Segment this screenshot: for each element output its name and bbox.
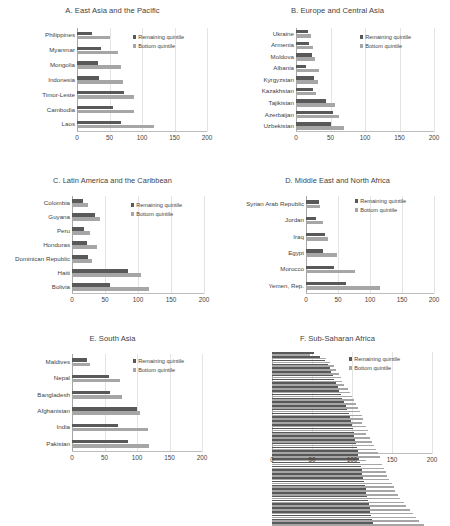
category-label: Azerbaijan bbox=[254, 112, 294, 118]
bar-remaining-quintile bbox=[72, 375, 109, 378]
x-tick-label: 0 bbox=[75, 134, 79, 141]
legend-item-remaining-quintile[interactable]: Remaining quintile bbox=[355, 198, 406, 204]
bar-group bbox=[296, 76, 434, 84]
bar-remaining-quintile bbox=[72, 241, 87, 244]
panel-d: D. Middle East and North AfricaSyrian Ar… bbox=[225, 170, 450, 330]
bar-group bbox=[77, 120, 207, 128]
bar-remaining-quintile bbox=[72, 424, 118, 427]
category-label: Kyrgyzstan bbox=[254, 77, 294, 83]
legend-label: Bottom quintile bbox=[354, 365, 391, 371]
legend-item-bottom-quintile[interactable]: Bottom quintile bbox=[131, 211, 182, 217]
category-label: Indonesia bbox=[33, 77, 75, 83]
x-tick-label: 100 bbox=[365, 296, 376, 303]
panel-f: F. Sub-Saharan Africa050100150200Remaini… bbox=[225, 330, 450, 485]
gridline-200 bbox=[204, 196, 205, 294]
bar-group bbox=[72, 423, 202, 431]
legend-item-bottom-quintile[interactable]: Bottom quintile bbox=[360, 43, 411, 49]
legend: Remaining quintileBottom quintile bbox=[349, 356, 400, 371]
bar-remaining-quintile bbox=[72, 213, 95, 216]
legend-item-remaining-quintile[interactable]: Remaining quintile bbox=[133, 358, 184, 364]
bar-remaining-quintile bbox=[306, 217, 316, 220]
bar-group bbox=[72, 269, 204, 277]
legend-item-bottom-quintile[interactable]: Bottom quintile bbox=[133, 367, 184, 373]
category-label: Egypt bbox=[240, 250, 304, 256]
bar-bottom-quintile bbox=[72, 411, 140, 414]
bar-bottom-quintile bbox=[77, 125, 154, 128]
legend-label: Remaining quintile bbox=[136, 202, 182, 208]
x-tick-label: 200 bbox=[429, 296, 440, 303]
bar-remaining-quintile bbox=[296, 53, 312, 56]
bar-bottom-quintile bbox=[72, 287, 149, 290]
bar-remaining-quintile bbox=[296, 42, 309, 45]
legend-label: Remaining quintile bbox=[365, 34, 411, 40]
bar-group bbox=[77, 106, 207, 114]
category-label: Dominican Republic bbox=[10, 256, 70, 262]
panel-title-f: F. Sub-Saharan Africa bbox=[225, 334, 450, 343]
bar-remaining-quintile bbox=[306, 200, 319, 203]
category-label: Albania bbox=[254, 65, 294, 71]
category-label: Iraq bbox=[240, 234, 304, 240]
legend-label: Bottom quintile bbox=[138, 43, 175, 49]
legend-item-remaining-quintile[interactable]: Remaining quintile bbox=[133, 34, 184, 40]
bar-group bbox=[77, 91, 207, 99]
bar-bottom-quintile bbox=[72, 259, 92, 262]
x-axis-tick-labels: 050100150200 bbox=[272, 455, 432, 465]
bar-group bbox=[296, 87, 434, 95]
bar-bottom-quintile bbox=[296, 126, 344, 129]
legend-item-bottom-quintile[interactable]: Bottom quintile bbox=[355, 207, 406, 213]
legend-label: Bottom quintile bbox=[360, 207, 397, 213]
bar-remaining-quintile bbox=[306, 233, 325, 236]
gridline-200 bbox=[202, 354, 203, 452]
panel-b: B. Europe and Central AsiaUkraineArmenia… bbox=[225, 0, 450, 170]
category-label: Bangladesh bbox=[20, 392, 70, 398]
bar-remaining-quintile bbox=[72, 407, 137, 410]
category-label: Pakistan bbox=[20, 441, 70, 447]
bar-remaining-quintile bbox=[77, 47, 101, 50]
x-tick-label: 200 bbox=[429, 134, 440, 141]
bar-bottom-quintile bbox=[306, 205, 320, 208]
legend-item-bottom-quintile[interactable]: Bottom quintile bbox=[349, 365, 400, 371]
legend-swatch-remaining-icon bbox=[133, 35, 136, 38]
bar-bottom-quintile bbox=[306, 237, 328, 240]
bar-bottom-quintile bbox=[72, 428, 148, 431]
legend-item-remaining-quintile[interactable]: Remaining quintile bbox=[349, 356, 400, 362]
x-axis-tick-labels: 050100150200 bbox=[77, 133, 207, 143]
x-tick-label: 150 bbox=[164, 454, 175, 461]
legend: Remaining quintileBottom quintile bbox=[133, 34, 184, 49]
bar-group bbox=[296, 122, 434, 130]
bar-remaining-quintile bbox=[296, 30, 308, 33]
bar-remaining-quintile bbox=[77, 32, 92, 35]
x-tick-label: 100 bbox=[133, 296, 144, 303]
category-axis-labels: UkraineArmeniaMoldovaAlbaniaKyrgyzstanKa… bbox=[254, 28, 296, 132]
panel-title-e: E. South Asia bbox=[0, 334, 225, 343]
bar-group bbox=[77, 76, 207, 84]
bar-bottom-quintile bbox=[77, 95, 134, 98]
bar-group bbox=[296, 53, 434, 61]
bar-group bbox=[306, 249, 434, 257]
bar-group bbox=[306, 282, 434, 290]
bar-bottom-quintile bbox=[306, 221, 323, 224]
legend-swatch-bottom-icon bbox=[133, 44, 136, 47]
bar-bottom-quintile bbox=[72, 395, 122, 398]
category-label: Syrian Arab Republic bbox=[240, 201, 304, 207]
x-tick-label: 200 bbox=[197, 454, 208, 461]
bar-bottom-quintile bbox=[72, 379, 120, 382]
bar-remaining-quintile bbox=[77, 91, 124, 94]
legend-item-bottom-quintile[interactable]: Bottom quintile bbox=[133, 43, 184, 49]
x-axis-tick-labels: 050100150200 bbox=[306, 295, 434, 305]
x-tick-label: 0 bbox=[294, 134, 298, 141]
category-axis-labels bbox=[244, 352, 272, 454]
legend-item-remaining-quintile[interactable]: Remaining quintile bbox=[131, 202, 182, 208]
panel-e: E. South AsiaMaldivesNepalBangladeshAfgh… bbox=[0, 330, 225, 485]
bar-bottom-quintile bbox=[306, 286, 380, 289]
bar-remaining-quintile bbox=[72, 283, 110, 286]
category-label: Timor-Leste bbox=[33, 92, 75, 98]
legend-item-remaining-quintile[interactable]: Remaining quintile bbox=[360, 34, 411, 40]
bar-bottom-quintile bbox=[72, 217, 100, 220]
bar-remaining-quintile bbox=[72, 255, 88, 258]
category-label: Cambodia bbox=[33, 107, 75, 113]
x-tick-label: 150 bbox=[394, 134, 405, 141]
bar-bottom-quintile bbox=[296, 46, 313, 49]
bar-group bbox=[72, 241, 204, 249]
